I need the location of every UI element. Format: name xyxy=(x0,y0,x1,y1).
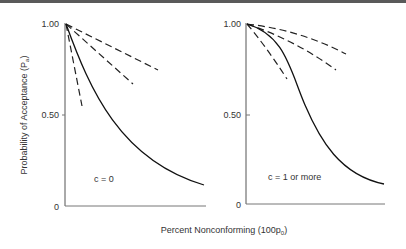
right-annotation: c = 1 or more xyxy=(268,172,321,182)
right-dashed-line-3 xyxy=(247,24,287,79)
right-tick-label-100: 1.00 xyxy=(223,19,241,29)
right-panel: 1.00 0.50 0 c = 1 or more xyxy=(223,19,385,210)
left-tick-label-050: 0.50 xyxy=(41,110,59,120)
left-dashed-line-1 xyxy=(66,24,158,70)
y-axis-title: Probability of Acceptance (Pa) xyxy=(19,56,30,175)
left-dashed-line-2 xyxy=(66,24,133,84)
left-solid-oc-curve xyxy=(66,24,204,185)
right-solid-oc-curve xyxy=(247,24,384,184)
right-dashed-line-1 xyxy=(247,24,346,54)
oc-curves-figure: Probability of Acceptance (Pa) 1.00 0.50… xyxy=(0,0,406,249)
left-dashed-line-3 xyxy=(66,24,82,106)
left-annotation: c = 0 xyxy=(94,174,114,184)
left-tick-label-100: 1.00 xyxy=(41,19,59,29)
right-tick-label-050: 0.50 xyxy=(223,110,241,120)
left-tick-label-0: 0 xyxy=(54,202,59,212)
x-axis-title: Percent Nonconforming (100p0) xyxy=(161,225,287,236)
right-dashed-line-2 xyxy=(247,24,336,70)
left-panel: 1.00 0.50 0 c = 0 xyxy=(41,19,206,212)
right-tick-label-0: 0 xyxy=(236,200,241,210)
